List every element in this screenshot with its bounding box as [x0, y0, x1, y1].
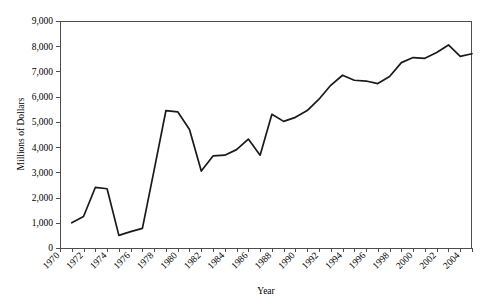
y-tick-label: 5,000 — [32, 117, 54, 127]
y-tick-label: 6,000 — [32, 92, 54, 102]
y-tick-label: 3,000 — [32, 168, 54, 178]
x-axis-title: Year — [257, 286, 275, 296]
y-tick-label: 2,000 — [32, 193, 54, 203]
chart-container: 01,0002,0003,0004,0005,0006,0007,0008,00… — [0, 0, 489, 305]
y-tick-label: 8,000 — [32, 42, 54, 52]
line-chart: 01,0002,0003,0004,0005,0006,0007,0008,00… — [0, 0, 489, 305]
y-tick-label: 7,000 — [32, 67, 54, 77]
y-tick-label: 1,000 — [32, 218, 54, 228]
y-tick-label: 4,000 — [32, 143, 54, 153]
y-axis-title: Millions of Dollars — [16, 97, 26, 170]
y-tick-label: 9,000 — [32, 16, 54, 26]
